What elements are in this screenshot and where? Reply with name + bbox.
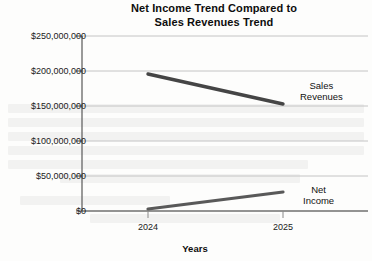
- y-tick-label-0: $0: [4, 207, 86, 216]
- chart-container: Net Income Trend Compared to Sales Reven…: [0, 0, 372, 261]
- y-tick-label-250m: $250,000,000: [4, 32, 86, 41]
- series-label-net-income-line-2: Income: [303, 195, 334, 206]
- series-label-net-income: Net Income: [303, 184, 334, 206]
- x-tick-label-2025: 2025: [263, 223, 303, 232]
- series-label-sales-revenues: Sales Revenues: [300, 80, 343, 102]
- x-axis: [82, 211, 368, 218]
- y-tick-label-50m: $50,000,000: [4, 172, 86, 181]
- series-line-sales-revenues: [148, 74, 283, 104]
- y-tick-label-100m: $100,000,000: [4, 137, 86, 146]
- series-label-sales-revenues-line-1: Sales: [310, 80, 334, 91]
- y-tick-label-150m: $150,000,000: [4, 102, 86, 111]
- x-tick-label-2024: 2024: [128, 223, 168, 232]
- x-axis-title: Years: [165, 243, 225, 254]
- series-label-net-income-line-1: Net: [311, 184, 326, 195]
- series-label-sales-revenues-line-2: Revenues: [300, 91, 343, 102]
- series-line-net-income: [148, 192, 283, 209]
- y-tick-label-200m: $200,000,000: [4, 67, 86, 76]
- gridlines: [82, 36, 368, 176]
- y-axis: [76, 36, 82, 211]
